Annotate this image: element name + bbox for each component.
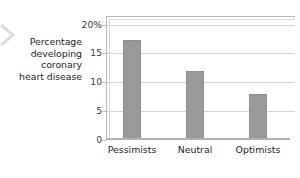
y-tick-label: 20% xyxy=(66,19,102,30)
gridline xyxy=(107,25,295,26)
bar-chart-figure: Percentage developing coronary heart dis… xyxy=(0,0,300,178)
bar xyxy=(123,40,141,140)
x-tick-label: Neutral xyxy=(178,144,213,155)
bar xyxy=(249,94,267,140)
plot-frame-top-inner xyxy=(109,19,295,20)
x-axis-tick-labels: PessimistsNeutralOptimists xyxy=(106,144,296,160)
y-axis-tick-labels: 05101520% xyxy=(62,16,102,140)
y-tick-label: 15 xyxy=(66,47,102,58)
y-tick-mark xyxy=(102,140,106,141)
plot-frame-top xyxy=(106,16,295,17)
y-tick-label: 0 xyxy=(66,134,102,145)
plot-area xyxy=(106,16,295,140)
plot-frame-left-inner xyxy=(109,19,110,140)
y-tick-label: 10 xyxy=(66,76,102,87)
x-tick-label: Pessimists xyxy=(108,144,157,155)
y-tick-label: 5 xyxy=(66,105,102,116)
bar xyxy=(186,71,204,140)
x-axis-line xyxy=(106,138,290,140)
plot-frame-left xyxy=(106,16,107,140)
x-tick-label: Optimists xyxy=(236,144,281,155)
